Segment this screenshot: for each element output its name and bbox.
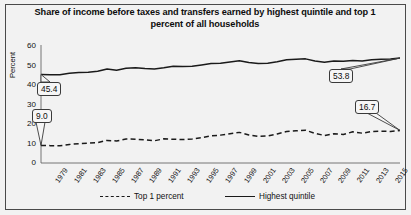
callout-16-7: 16.7 <box>355 100 379 114</box>
chart-legend: Top 1 percent Highest quintile <box>100 191 340 205</box>
legend-label-highest-quintile: Highest quintile <box>259 191 315 203</box>
plot-area <box>0 0 411 215</box>
chart-figure: Share of income before taxes and transfe… <box>0 0 411 215</box>
callout-9-0: 9.0 <box>32 109 52 123</box>
solid-line-icon <box>225 196 255 197</box>
callout-45-4: 45.4 <box>37 82 61 96</box>
series-line-top-1-percent <box>41 130 400 146</box>
legend-label-top-1-percent: Top 1 percent <box>134 191 184 203</box>
dashed-line-icon <box>100 196 130 197</box>
callout-53-8: 53.8 <box>329 69 353 83</box>
